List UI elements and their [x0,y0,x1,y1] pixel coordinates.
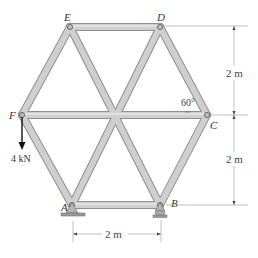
label-C: C [210,119,218,131]
angle-label: 60° [181,97,195,108]
truss-diagram: E D F C A B 4 kN 60° 2 m 2 m 2 m [0,0,258,258]
pin-F [19,112,24,117]
dim-base-width: 2 m [105,228,122,240]
pin-C [204,112,209,117]
truss-members [22,26,207,205]
label-E: E [63,11,71,23]
member-FE [22,27,70,115]
dim-lower-height: 2 m [226,153,243,165]
dim-upper-height: 2 m [226,67,243,79]
load-label: 4 kN [11,153,31,164]
label-D: D [156,11,165,23]
label-F: F [8,109,16,121]
label-A: A [60,201,68,213]
pin-E [67,24,72,29]
label-B: B [171,197,178,209]
pin-D [157,24,162,29]
member-CB [160,115,207,205]
